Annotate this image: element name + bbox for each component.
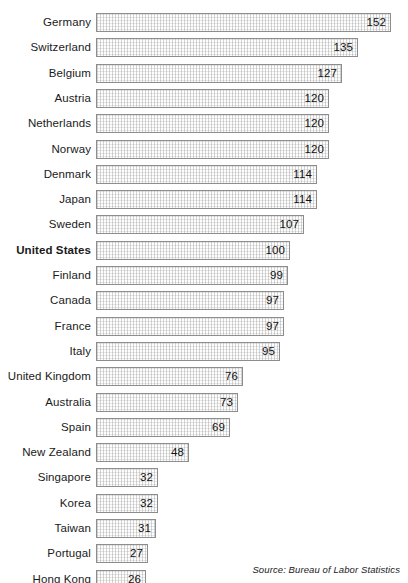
bar: 31 xyxy=(96,519,156,538)
bar: 69 xyxy=(96,418,230,437)
bar-row: Sweden107 xyxy=(0,215,408,234)
bar-track: 95 xyxy=(96,342,408,361)
bar-row: United States100 xyxy=(0,241,408,260)
bar: 120 xyxy=(96,114,329,133)
bar-value-label: 76 xyxy=(225,368,242,385)
category-label: Netherlands xyxy=(0,114,96,133)
bar-track: 120 xyxy=(96,140,408,159)
category-label: Singapore xyxy=(0,468,96,487)
category-label: Belgium xyxy=(0,64,96,83)
bar-track: 152 xyxy=(96,13,408,32)
bar-row: Norway120 xyxy=(0,140,408,159)
category-label: United Kingdom xyxy=(0,367,96,386)
category-label: United States xyxy=(0,241,96,260)
bar-value-label: 120 xyxy=(305,90,329,107)
category-label: New Zealand xyxy=(0,443,96,462)
bar-row: Germany152 xyxy=(0,13,408,32)
bar-row: Singapore32 xyxy=(0,468,408,487)
bar: 99 xyxy=(96,266,288,285)
bar-row: Japan114 xyxy=(0,190,408,209)
bar-track: 135 xyxy=(96,38,408,57)
bar-track: 76 xyxy=(96,367,408,386)
bar-row: Spain69 xyxy=(0,418,408,437)
bar: 114 xyxy=(96,165,317,184)
category-label: Sweden xyxy=(0,215,96,234)
category-label: Japan xyxy=(0,190,96,209)
bar-track: 100 xyxy=(96,241,408,260)
bar-track: 27 xyxy=(96,544,408,563)
bar-row: United Kingdom76 xyxy=(0,367,408,386)
category-label: Spain xyxy=(0,418,96,437)
bar-row: Korea32 xyxy=(0,494,408,513)
bar-row: Belgium127 xyxy=(0,64,408,83)
category-label: Korea xyxy=(0,494,96,513)
category-label: Italy xyxy=(0,342,96,361)
bar: 107 xyxy=(96,215,304,234)
bar: 73 xyxy=(96,393,238,412)
bar-track: 32 xyxy=(96,468,408,487)
bar: 32 xyxy=(96,494,158,513)
bar: 32 xyxy=(96,468,158,487)
bar-value-label: 27 xyxy=(130,545,147,562)
bar-track: 97 xyxy=(96,317,408,336)
category-label: Taiwan xyxy=(0,519,96,538)
bar-track: 107 xyxy=(96,215,408,234)
bar-value-label: 135 xyxy=(334,39,358,56)
category-label: France xyxy=(0,317,96,336)
bar-value-label: 32 xyxy=(140,469,157,486)
category-label: Hong Kong xyxy=(0,570,96,583)
category-label: Portugal xyxy=(0,544,96,563)
bar-value-label: 73 xyxy=(220,394,237,411)
bar-row: Denmark114 xyxy=(0,165,408,184)
bar-value-label: 31 xyxy=(138,520,155,537)
bar: 76 xyxy=(96,367,243,386)
bar-row: Finland99 xyxy=(0,266,408,285)
bar-value-label: 69 xyxy=(212,419,229,436)
bar-value-label: 114 xyxy=(293,166,316,183)
category-label: Denmark xyxy=(0,165,96,184)
bar: 152 xyxy=(96,13,391,32)
bar-value-label: 120 xyxy=(305,141,329,158)
bar-track: 48 xyxy=(96,443,408,462)
bar-value-label: 95 xyxy=(262,343,279,360)
category-label: Finland xyxy=(0,266,96,285)
bar: 48 xyxy=(96,443,189,462)
bar: 120 xyxy=(96,140,329,159)
bar-track: 114 xyxy=(96,165,408,184)
bar-value-label: 114 xyxy=(293,191,316,208)
bar: 127 xyxy=(96,64,342,83)
bar-track: 99 xyxy=(96,266,408,285)
bar-row: Canada97 xyxy=(0,291,408,310)
bar: 100 xyxy=(96,241,290,260)
bar: 135 xyxy=(96,38,358,57)
bar-value-label: 32 xyxy=(140,495,157,512)
category-label: Norway xyxy=(0,140,96,159)
bar-row: New Zealand48 xyxy=(0,443,408,462)
category-label: Germany xyxy=(0,13,96,32)
category-label: Australia xyxy=(0,393,96,412)
bar-value-label: 127 xyxy=(318,65,342,82)
bar: 26 xyxy=(96,570,146,583)
bar-track: 73 xyxy=(96,393,408,412)
bar-row: Italy95 xyxy=(0,342,408,361)
bar: 97 xyxy=(96,317,284,336)
bar-track: 120 xyxy=(96,114,408,133)
bar-track: 69 xyxy=(96,418,408,437)
bar-track: 97 xyxy=(96,291,408,310)
bar-track: 114 xyxy=(96,190,408,209)
bar-value-label: 26 xyxy=(128,571,145,583)
bar-row: Netherlands120 xyxy=(0,114,408,133)
bar-value-label: 100 xyxy=(266,242,290,259)
bar-row: Portugal27 xyxy=(0,544,408,563)
bar: 95 xyxy=(96,342,280,361)
bar-value-label: 97 xyxy=(266,318,283,335)
bar-track: 120 xyxy=(96,89,408,108)
bar-value-label: 152 xyxy=(367,14,391,31)
bar-value-label: 97 xyxy=(266,292,283,309)
bar: 114 xyxy=(96,190,317,209)
bar-track: 32 xyxy=(96,494,408,513)
source-note: Source: Bureau of Labor Statistics xyxy=(252,564,400,575)
bar-track: 31 xyxy=(96,519,408,538)
bar: 120 xyxy=(96,89,329,108)
bar: 27 xyxy=(96,544,148,563)
